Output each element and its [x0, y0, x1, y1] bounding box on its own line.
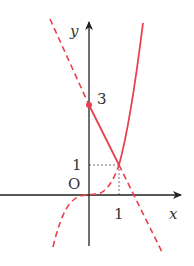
y-axis-label: y	[69, 22, 79, 40]
origin-label: O	[68, 175, 80, 193]
x-tick-1: 1	[114, 205, 124, 223]
x-axis-label: x	[169, 205, 178, 223]
point-0-3	[86, 102, 92, 108]
cubic-dashed	[53, 165, 119, 247]
y-tick-1: 1	[72, 156, 82, 174]
graph: y x O 1 1 3	[0, 0, 194, 266]
line-dashed-lower	[119, 165, 162, 252]
y-tick-3: 3	[97, 90, 107, 108]
